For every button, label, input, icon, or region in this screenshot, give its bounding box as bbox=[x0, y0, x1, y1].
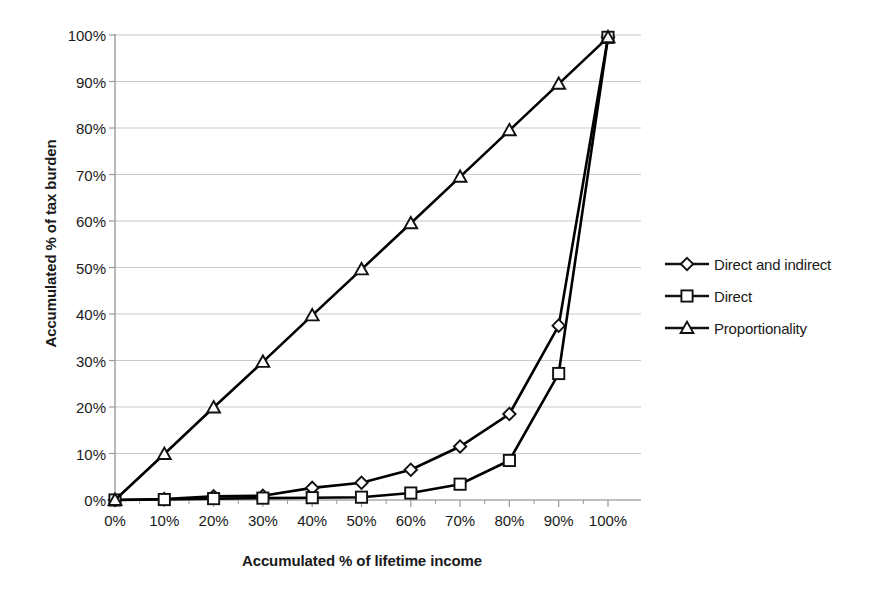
diamond-marker-icon bbox=[355, 477, 367, 489]
legend-marker bbox=[664, 287, 710, 305]
square-marker-icon bbox=[504, 455, 515, 466]
legend-item[interactable]: Direct bbox=[664, 280, 874, 312]
series-marker-diamond bbox=[681, 258, 693, 270]
series-marker-square bbox=[356, 492, 367, 503]
series-marker-square bbox=[504, 455, 515, 466]
square-marker-icon bbox=[159, 494, 170, 505]
legend-item-label: Proportionality bbox=[714, 320, 807, 337]
diamond-marker-icon bbox=[681, 258, 693, 270]
series-marker-square bbox=[208, 493, 219, 504]
legend-marker bbox=[664, 319, 710, 337]
square-marker-icon bbox=[356, 492, 367, 503]
legend-item[interactable]: Proportionality bbox=[664, 312, 874, 344]
square-marker-icon bbox=[405, 487, 416, 498]
diamond-marker-icon bbox=[405, 464, 417, 476]
square-marker-icon bbox=[257, 493, 268, 504]
square-marker-icon bbox=[681, 290, 692, 301]
chart-figure: Accumulated % of tax burden 0%10%20%30%4… bbox=[0, 0, 878, 590]
series-marker-square bbox=[553, 368, 564, 379]
series-marker-square bbox=[405, 487, 416, 498]
series-marker-square bbox=[257, 493, 268, 504]
series-marker-diamond bbox=[405, 464, 417, 476]
series-marker-square bbox=[159, 494, 170, 505]
chart-legend: Direct and indirectDirectProportionality bbox=[664, 248, 874, 344]
series-marker-square bbox=[307, 492, 318, 503]
series-marker-square bbox=[681, 290, 692, 301]
square-marker-icon bbox=[307, 492, 318, 503]
square-marker-icon bbox=[455, 479, 466, 490]
series-marker-diamond bbox=[553, 319, 565, 331]
series-marker-diamond bbox=[355, 477, 367, 489]
legend-marker bbox=[664, 255, 710, 273]
series-marker-square bbox=[455, 479, 466, 490]
legend-item-label: Direct bbox=[714, 288, 752, 305]
legend-item[interactable]: Direct and indirect bbox=[664, 248, 874, 280]
legend-item-label: Direct and indirect bbox=[714, 256, 831, 273]
square-marker-icon bbox=[208, 493, 219, 504]
square-marker-icon bbox=[553, 368, 564, 379]
diamond-marker-icon bbox=[553, 319, 565, 331]
